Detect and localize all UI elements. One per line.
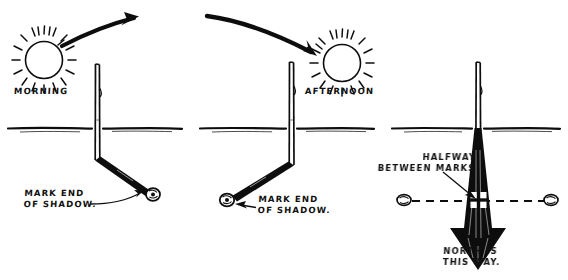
curved-arrow-icon [207,16,317,56]
shadow-stick-illustration: MORNING AFTERNOON MARK END OF SHADOW. MA… [0,0,568,280]
label-mark-end-of-shadow-afternoon: MARK END OF SHADOW. [257,194,331,216]
label-north-is-this-way: NORTH IS THIS WAY. [442,246,501,268]
label-halfway-between-marks: HALFWAY BETWEEN MARKS [377,152,476,174]
pointer-arrow-icon [235,201,256,209]
label-mark-end-of-shadow-morning: MARK END OF SHADOW. [23,188,97,210]
illustration-canvas [0,0,568,280]
sun-icon [12,26,76,93]
pebble-icon [544,195,558,206]
label-afternoon: AFTERNOON [305,86,375,97]
panel-afternoon-graphics [200,16,374,209]
pebble-icon [220,194,234,207]
shadow-icon [95,157,150,197]
pointer-arrow-icon [90,190,144,204]
pebble-icon [397,195,411,206]
stick-icon [95,64,101,160]
stick-icon [289,62,295,165]
cross-marker-icon [470,191,488,209]
label-morning: MORNING [14,86,69,97]
pebble-icon [146,188,160,201]
curved-arrow-icon [62,12,139,46]
panel-morning-graphics [8,12,182,204]
ground-line-icon [200,128,374,132]
